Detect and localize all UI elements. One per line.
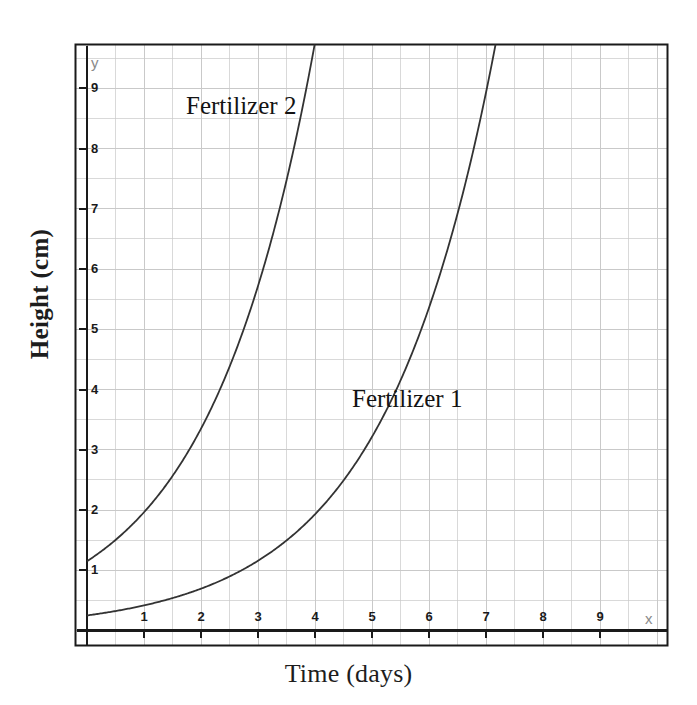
x-axis-letter: x [645,610,653,627]
y-tick-label: 5 [91,321,111,336]
grid-major-lines [76,45,668,646]
tick-marks [79,88,600,637]
x-tick-label: 8 [533,609,553,624]
y-tick-label: 1 [91,562,111,577]
x-tick-label: 5 [362,609,382,624]
x-tick-label: 4 [305,609,325,624]
y-tick-label: 2 [91,502,111,517]
y-tick-label: 9 [91,80,111,95]
chart-figure: Height (cm) Time (days) y x Fertilizer 2… [0,0,697,705]
x-tick-label: 9 [590,609,610,624]
plot-area [0,0,697,705]
x-axis-title: Time (days) [0,659,697,689]
x-tick-label: 6 [419,609,439,624]
y-tick-label: 4 [91,382,111,397]
x-tick-label: 3 [248,609,268,624]
y-tick-label: 8 [91,141,111,156]
curve-label-fertilizer-1: Fertilizer 1 [352,385,462,413]
curve-label-fertilizer-2: Fertilizer 2 [186,92,296,120]
y-tick-label: 6 [91,261,111,276]
y-axis-title: Height (cm) [26,184,54,404]
y-tick-label: 3 [91,442,111,457]
y-tick-label: 7 [91,201,111,216]
y-axis-letter: y [91,54,99,71]
x-tick-label: 2 [191,609,211,624]
x-tick-label: 1 [134,609,154,624]
curve-fertilizer-1 [87,45,496,616]
x-tick-label: 7 [476,609,496,624]
